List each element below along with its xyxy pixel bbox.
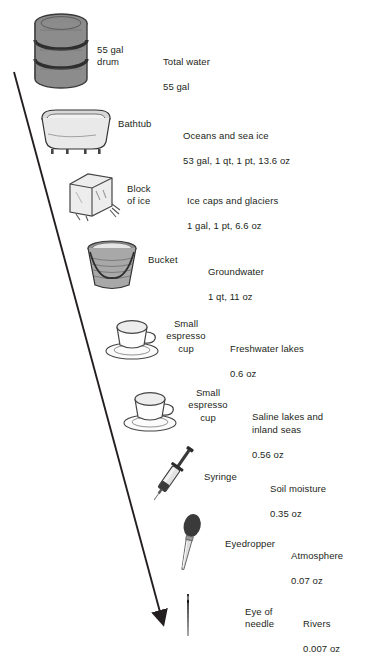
bucket-icon — [82, 238, 142, 294]
description-text: Groundwater — [208, 266, 358, 278]
amount-text: 0.6 oz — [230, 368, 360, 380]
description-text: Saline lakes and inland seas — [252, 411, 368, 436]
description-text: Soil moisture — [270, 483, 365, 495]
container-label: Block of ice — [127, 183, 177, 208]
description-text: Oceans and sea ice — [183, 130, 358, 142]
row-description: Soil moisture 0.35 oz — [270, 471, 365, 533]
amount-text: 55 gal — [163, 81, 313, 93]
row-description: Ice caps and glaciers 1 gal, 1 pt, 6.6 o… — [187, 183, 357, 245]
espresso-cup-icon — [122, 385, 182, 435]
drum-icon — [30, 12, 92, 90]
container-label: Small espresso cup — [160, 318, 212, 355]
container-label: Syringe — [204, 471, 258, 483]
amount-text: 0.35 oz — [270, 508, 365, 520]
row-description: Groundwater 1 qt, 11 oz — [208, 254, 358, 316]
description-text: Total water — [163, 56, 313, 68]
amount-text: 1 gal, 1 pt, 6.6 oz — [187, 220, 357, 232]
container-label: Bucket — [148, 254, 198, 266]
needle-icon — [178, 592, 198, 640]
ice-block-icon — [62, 170, 122, 222]
row-description: Atmosphere 0.07 oz — [291, 538, 368, 600]
amount-text: 0.07 oz — [291, 575, 368, 587]
row-description: Rivers 0.007 oz — [303, 606, 368, 656]
row-description: Total water 55 gal — [163, 44, 313, 106]
amount-text: 53 gal, 1 qt, 1 pt, 13.6 oz — [183, 155, 358, 167]
container-label: Eye of needle — [245, 606, 293, 631]
container-label: 55 gal drum — [97, 44, 153, 69]
container-label: Small espresso cup — [182, 387, 234, 424]
syringe-icon — [145, 438, 201, 508]
container-label: Bathtub — [118, 118, 174, 130]
amount-text: 0.007 oz — [303, 643, 368, 655]
description-text: Atmosphere — [291, 550, 368, 562]
row-description: Freshwater lakes 0.6 oz — [230, 331, 360, 393]
bathtub-icon — [36, 108, 116, 156]
row-description: Oceans and sea ice 53 gal, 1 qt, 1 pt, 1… — [183, 118, 358, 180]
amount-text: 1 qt, 11 oz — [208, 291, 358, 303]
description-text: Rivers — [303, 618, 368, 630]
espresso-cup-icon — [104, 313, 164, 363]
amount-text: 0.56 oz — [252, 449, 368, 461]
container-label: Eyedropper — [225, 538, 287, 550]
row-description: Saline lakes and inland seas 0.56 oz — [252, 399, 368, 473]
eyedropper-icon — [168, 512, 208, 578]
description-text: Freshwater lakes — [230, 343, 360, 355]
description-text: Ice caps and glaciers — [187, 195, 357, 207]
